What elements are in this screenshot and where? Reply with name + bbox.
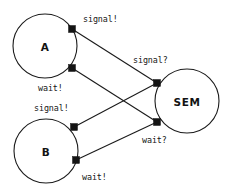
connection-b-signal-to-sem-signal[interactable] [74,83,157,127]
port-label-b-signal: signal! [34,103,69,113]
node-a-label: A [41,41,50,53]
port-label-b-wait: wait! [82,172,107,182]
port-label-sem-signal: signal? [133,55,168,65]
port-sem-wait[interactable] [154,119,161,126]
port-label-a-signal: signal! [83,14,118,24]
port-label-a-wait: wait! [38,83,63,93]
node-b-label: B [42,146,51,158]
connection-a-wait-to-sem-wait[interactable] [72,68,157,122]
port-b-signal[interactable] [71,124,78,131]
port-sem-signal[interactable] [154,80,161,87]
node-sem-label: SEM [174,96,201,108]
diagram-canvas: A B SEM signal! wait! signal! wait! sign… [0,0,229,193]
port-label-sem-wait: wait? [142,135,167,145]
port-b-wait[interactable] [73,157,80,164]
port-a-wait[interactable] [69,65,76,72]
diagram-svg: A B SEM signal! wait! signal! wait! sign… [0,0,229,193]
port-a-signal[interactable] [69,26,76,33]
